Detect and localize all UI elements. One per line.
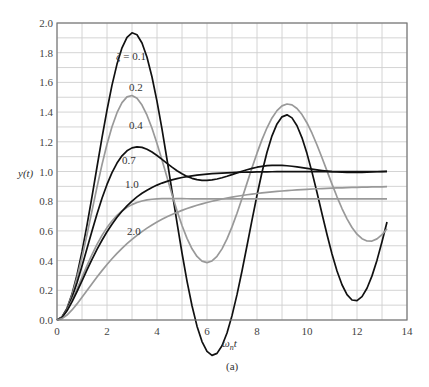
x-tick-label: 10 <box>302 325 314 337</box>
y-tick-label: 2.0 <box>39 17 53 29</box>
y-axis-label: y(t) <box>17 167 34 180</box>
curve-label: 0.7 <box>122 154 136 166</box>
figure-caption: (a) <box>226 360 239 373</box>
y-tick-label: 0.2 <box>39 284 53 296</box>
y-tick-label: 0.0 <box>39 314 53 326</box>
y-tick-label: 1.0 <box>39 166 53 178</box>
y-tick-label: 1.2 <box>39 136 53 148</box>
y-tick-label: 1.6 <box>39 76 53 88</box>
x-tick-label: 12 <box>352 325 363 337</box>
curve-label: ζ = 0.1 <box>116 50 146 63</box>
background <box>0 0 429 387</box>
curve-label: 0.2 <box>129 81 143 93</box>
x-tick-label: 14 <box>402 325 414 337</box>
curve-label: 2.0 <box>127 225 141 237</box>
x-tick-label: 8 <box>254 325 260 337</box>
y-tick-label: 1.4 <box>39 106 53 118</box>
x-tick-label: 0 <box>54 325 60 337</box>
x-tick-label: 6 <box>204 325 210 337</box>
y-tick-label: 1.8 <box>39 47 53 59</box>
curve-label: 0.4 <box>129 119 143 131</box>
y-tick-label: 0.6 <box>39 225 53 237</box>
step-response-chart: 0.00.20.40.60.81.01.21.41.61.82.0 024681… <box>0 0 429 387</box>
x-tick-label: 4 <box>154 325 160 337</box>
y-tick-label: 0.4 <box>39 255 53 267</box>
x-tick-label: 2 <box>104 325 110 337</box>
y-tick-label: 0.8 <box>39 195 53 207</box>
curve-label: 1.0 <box>125 178 139 190</box>
